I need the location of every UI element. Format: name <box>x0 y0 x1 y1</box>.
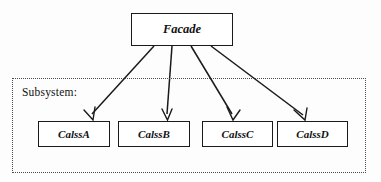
subsystem-class-b-label: CalssB <box>138 128 170 140</box>
subsystem-class-a-label: CalssA <box>58 128 90 140</box>
subsystem-class-d-label: CalssD <box>296 128 328 140</box>
subsystem-class-b-node[interactable]: CalssB <box>118 121 190 147</box>
subsystem-label: Subsystem: <box>22 86 77 98</box>
subsystem-class-c-label: CalssC <box>222 128 254 140</box>
subsystem-class-a-node[interactable]: CalssA <box>38 121 110 147</box>
subsystem-class-c-node[interactable]: CalssC <box>202 121 273 147</box>
facade-node[interactable]: Facade <box>131 13 233 46</box>
facade-pattern-diagram: Subsystem: Facade CalssA CalssB CalssC C… <box>0 0 381 182</box>
subsystem-class-d-node[interactable]: CalssD <box>277 121 348 147</box>
facade-node-label: Facade <box>163 22 201 37</box>
